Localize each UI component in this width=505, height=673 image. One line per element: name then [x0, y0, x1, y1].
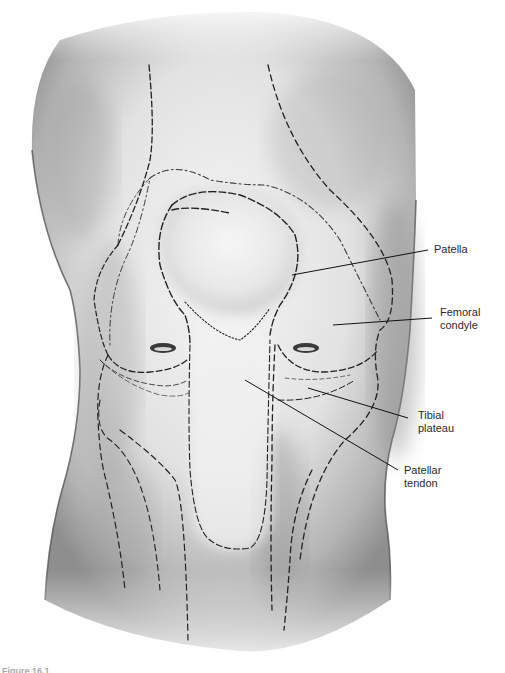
label-patella: Patella	[434, 243, 468, 256]
knee-illustration	[0, 0, 505, 673]
figure-caption-partial: Figure 16.1	[2, 666, 50, 673]
incision-lateral	[293, 343, 319, 353]
label-femoral-condyle: Femoral condyle	[440, 306, 480, 332]
knee-diagram: Patella Femoral condyle Tibial plateau P…	[0, 0, 505, 673]
label-tibial-plateau: Tibial plateau	[418, 409, 454, 435]
incision-medial	[150, 343, 176, 353]
label-patellar-tendon: Patellar tendon	[404, 464, 441, 490]
